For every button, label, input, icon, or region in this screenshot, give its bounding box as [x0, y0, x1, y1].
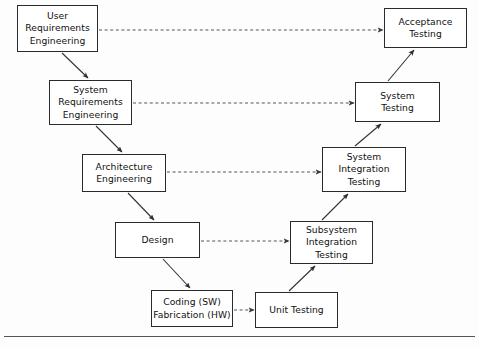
solid-arrow-architecture-to-design: [128, 193, 154, 220]
solid-arrow-subsystem-to-system-integration: [322, 194, 348, 220]
node-system-testing[interactable]: SystemTesting: [355, 82, 440, 122]
node-label-line: Architecture: [96, 161, 153, 173]
solid-arrow-system-testing-to-acceptance: [388, 50, 414, 81]
node-label-line: Engineering: [96, 173, 152, 185]
node-label-line: Integration: [338, 163, 389, 175]
solid-arrow-design-to-coding: [163, 259, 190, 288]
node-label-line: System: [73, 84, 108, 96]
node-architecture-engineering[interactable]: ArchitectureEngineering: [82, 154, 166, 192]
solid-arrow-system-req-to-architecture: [96, 126, 122, 152]
footer-divider-rule: [4, 336, 475, 337]
node-label-line: Testing: [409, 28, 442, 40]
node-label-line: Integration: [306, 236, 357, 248]
solid-arrow-user-req-to-system-req: [62, 53, 88, 78]
node-label-line: User: [47, 10, 68, 22]
node-system-integration-testing[interactable]: SystemIntegrationTesting: [322, 147, 406, 192]
node-label-line: Requirements: [25, 22, 89, 34]
node-label-line: Unit Testing: [269, 304, 324, 316]
node-label-line: Engineering: [30, 35, 86, 47]
node-system-requirements-engineering[interactable]: SystemRequirementsEngineering: [49, 80, 132, 125]
node-label-line: Testing: [381, 102, 414, 114]
v-model-diagram-page: UserRequirementsEngineeringSystemRequire…: [0, 0, 479, 347]
node-coding-fabrication[interactable]: Coding (SW)Fabrication (HW): [151, 290, 233, 327]
node-label-line: Design: [141, 234, 173, 246]
node-design[interactable]: Design: [115, 222, 200, 258]
node-label-line: Fabrication (HW): [153, 309, 230, 321]
node-label-line: Acceptance: [399, 16, 453, 28]
node-label-line: Requirements: [58, 96, 122, 108]
node-subsystem-integration-testing[interactable]: SubsystemIntegrationTesting: [290, 221, 373, 264]
diagram-connectors-layer: [0, 0, 479, 347]
node-label-line: Engineering: [63, 109, 119, 121]
solid-arrow-unit-to-subsystem-integration: [289, 266, 315, 291]
node-label-line: Testing: [348, 176, 381, 188]
node-acceptance-testing[interactable]: AcceptanceTesting: [384, 8, 467, 48]
node-label-line: System: [347, 151, 382, 163]
node-label-line: System: [380, 90, 415, 102]
node-label-line: Coding (SW): [163, 296, 221, 308]
node-label-line: Testing: [315, 249, 348, 261]
node-label-line: Subsystem: [306, 224, 357, 236]
node-unit-testing[interactable]: Unit Testing: [255, 292, 338, 328]
node-user-requirements-engineering[interactable]: UserRequirementsEngineering: [17, 5, 98, 52]
solid-arrow-system-integration-to-system-testing: [355, 124, 381, 146]
